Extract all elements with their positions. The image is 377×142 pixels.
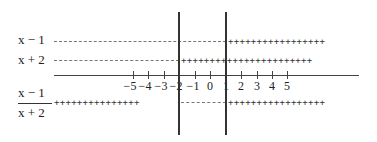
tick-minus-4 (148, 71, 149, 79)
tick-label-5: 5 (284, 80, 290, 92)
tick-label-2: 2 (238, 80, 244, 92)
positive-region-x-minus-1: +++++++++++++++++ (228, 36, 356, 46)
tick-5 (287, 71, 288, 79)
factor-label-x-plus-2: x + 2 (18, 53, 45, 67)
negative-region-x-minus-1 (54, 41, 226, 42)
positive-region-quotient-right: +++++++++++++++++ (228, 97, 356, 107)
critical-line-x-1 (225, 12, 227, 135)
tick-4 (272, 71, 273, 79)
negative-region-quotient (181, 102, 226, 103)
factor-label-x-minus-1: x − 1 (18, 33, 45, 47)
positive-region-x-plus-2: +++++++++++++++++++++++ (181, 55, 356, 65)
tick-minus-1 (195, 71, 196, 79)
tick-0 (210, 71, 211, 79)
tick-label-0: 0 (207, 80, 213, 92)
tick-label-minus-4: −4 (139, 80, 152, 92)
tick-2 (241, 71, 242, 79)
quotient-numerator: x − 1 (18, 86, 52, 100)
tick-3 (257, 71, 258, 79)
quotient-label: x − 1 x + 2 (18, 86, 52, 120)
tick-minus-5 (133, 71, 134, 79)
fraction-bar (18, 103, 52, 104)
number-line (54, 75, 359, 76)
tick-label-minus-3: −3 (155, 80, 168, 92)
tick-label-3: 3 (254, 80, 260, 92)
positive-region-quotient-left: +++++++++++++++ (54, 97, 179, 107)
tick-label-4: 4 (269, 80, 275, 92)
tick-label-minus-5: −5 (124, 80, 137, 92)
tick-label-minus-2: −2 (170, 80, 183, 92)
critical-line-x-minus-2 (178, 12, 180, 135)
negative-region-x-plus-2 (54, 60, 179, 61)
tick-minus-3 (164, 71, 165, 79)
quotient-denominator: x + 2 (18, 106, 52, 120)
tick-label-minus-1: −1 (187, 80, 200, 92)
